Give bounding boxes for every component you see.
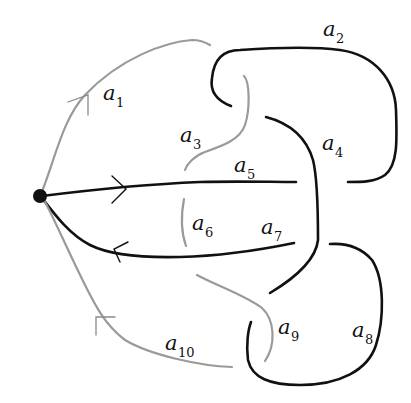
svg-text:a: a [322, 131, 335, 155]
svg-text:a: a [103, 81, 116, 105]
svg-text:a: a [180, 123, 193, 147]
svg-text:9: 9 [291, 329, 299, 344]
arc-a6 [182, 199, 186, 246]
svg-text:1: 1 [116, 95, 124, 110]
label-a6: a 6 [192, 211, 213, 240]
diagram-canvas: a 1 a 2 a 3 a 4 a 5 a 6 a 7 a 8 a 9 a 10 [0, 0, 411, 403]
label-a10: a 10 [165, 331, 195, 360]
label-a5: a 5 [234, 153, 255, 182]
svg-text:a: a [261, 215, 274, 239]
label-a3: a 3 [180, 123, 201, 152]
arc-a9 [197, 275, 273, 361]
svg-text:8: 8 [365, 332, 373, 347]
arc-a7 [42, 198, 294, 257]
label-a2: a 2 [323, 17, 344, 46]
arc-a4 [266, 117, 318, 293]
svg-text:3: 3 [193, 137, 201, 152]
knot-diagram: a 1 a 2 a 3 a 4 a 5 a 6 a 7 a 8 a 9 a 10 [0, 0, 411, 403]
label-a4: a 4 [322, 131, 343, 160]
arc-a5 [42, 182, 296, 196]
arrow-a5-icon [112, 176, 126, 203]
svg-text:a: a [323, 17, 336, 41]
basepoint-dot [33, 189, 47, 203]
svg-text:a: a [192, 211, 205, 235]
label-a1: a 1 [103, 81, 124, 110]
svg-text:2: 2 [336, 31, 344, 46]
arrow-a7-icon [114, 242, 128, 262]
svg-text:6: 6 [205, 225, 213, 240]
label-a7: a 7 [261, 215, 282, 244]
svg-text:7: 7 [274, 229, 282, 244]
label-a8: a 8 [352, 318, 373, 347]
label-a9: a 9 [278, 315, 299, 344]
svg-text:10: 10 [178, 345, 195, 360]
svg-text:a: a [234, 153, 247, 177]
svg-text:a: a [278, 315, 291, 339]
svg-text:5: 5 [247, 167, 255, 182]
svg-text:a: a [352, 318, 365, 342]
svg-text:a: a [165, 331, 178, 355]
svg-text:4: 4 [335, 145, 343, 160]
